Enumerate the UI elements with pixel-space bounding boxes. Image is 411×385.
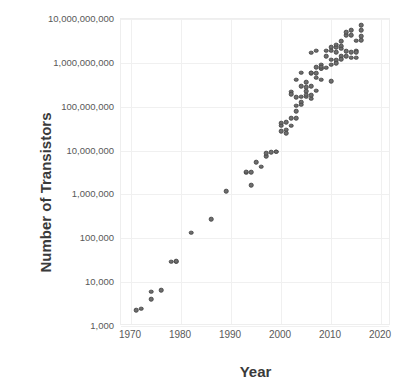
scatter-point bbox=[149, 290, 154, 295]
scatter-point bbox=[354, 56, 359, 61]
scatter-point bbox=[354, 38, 359, 43]
gridline-vertical bbox=[231, 19, 232, 324]
scatter-point bbox=[304, 92, 309, 97]
scatter-point bbox=[289, 92, 294, 97]
scatter-point bbox=[259, 164, 264, 169]
x-axis-title: Year bbox=[120, 360, 391, 382]
scatter-point bbox=[304, 80, 309, 85]
y-axis-tick-label: 1,000 bbox=[0, 320, 114, 331]
scatter-point bbox=[329, 79, 334, 84]
scatter-point bbox=[289, 116, 294, 121]
scatter-point bbox=[289, 123, 294, 128]
y-axis-tick-label: 100,000,000 bbox=[0, 100, 114, 111]
scatter-point bbox=[309, 84, 314, 89]
scatter-point bbox=[339, 39, 344, 44]
gridline-horizontal bbox=[121, 282, 389, 283]
scatter-point bbox=[359, 34, 364, 39]
scatter-point bbox=[249, 183, 254, 188]
gridline-horizontal bbox=[121, 63, 389, 64]
scatter-point bbox=[249, 170, 254, 175]
gridline-horizontal bbox=[121, 107, 389, 108]
scatter-point bbox=[329, 58, 334, 63]
x-axis-tick-label: 1980 bbox=[155, 329, 205, 340]
scatter-point bbox=[189, 230, 194, 235]
scatter-point bbox=[314, 88, 319, 93]
scatter-point bbox=[299, 94, 304, 99]
scatter-point bbox=[314, 71, 319, 76]
x-axis-tick-label: 2020 bbox=[355, 329, 405, 340]
scatter-point bbox=[244, 169, 249, 174]
scatter-point bbox=[349, 56, 354, 61]
scatter-point bbox=[324, 65, 329, 70]
scatter-point bbox=[294, 103, 299, 108]
gridline-vertical bbox=[131, 19, 132, 324]
scatter-point bbox=[314, 48, 319, 53]
gridline-vertical bbox=[181, 19, 182, 324]
scatter-point bbox=[334, 50, 339, 55]
scatter-point bbox=[294, 116, 299, 121]
scatter-point bbox=[169, 260, 174, 265]
y-axis-tick-label: 1,000,000 bbox=[0, 188, 114, 199]
y-axis-tick-label: 10,000 bbox=[0, 276, 114, 287]
scatter-point bbox=[334, 42, 339, 47]
scatter-point bbox=[329, 48, 334, 53]
gridline-horizontal bbox=[121, 19, 389, 20]
scatter-point bbox=[329, 62, 334, 67]
scatter-point bbox=[324, 48, 329, 53]
scatter-point bbox=[294, 95, 299, 100]
scatter-point bbox=[334, 61, 339, 66]
x-axis-tick-label: 1990 bbox=[205, 329, 255, 340]
scatter-point bbox=[224, 189, 229, 194]
scatter-point bbox=[314, 75, 319, 80]
scatter-point bbox=[309, 93, 314, 98]
scatter-point bbox=[349, 33, 354, 38]
chart-container: Number of Transistors 1,00010,000100,000… bbox=[0, 0, 411, 385]
scatter-point bbox=[314, 65, 319, 70]
gridline-vertical bbox=[381, 19, 382, 324]
gridline-horizontal bbox=[121, 238, 389, 239]
scatter-point bbox=[339, 57, 344, 62]
y-axis-tick-label: 10,000,000 bbox=[0, 144, 114, 155]
scatter-point bbox=[324, 54, 329, 59]
scatter-point bbox=[344, 54, 349, 59]
x-axis-tick-label: 2000 bbox=[255, 329, 305, 340]
scatter-point bbox=[359, 28, 364, 33]
y-axis-tick-label: 1,000,000,000 bbox=[0, 56, 114, 67]
scatter-point bbox=[344, 30, 349, 35]
scatter-point bbox=[174, 259, 179, 264]
gridline-horizontal bbox=[121, 326, 389, 327]
y-axis-tick-label: 100,000 bbox=[0, 232, 114, 243]
scatter-point bbox=[299, 102, 304, 107]
scatter-point bbox=[344, 49, 349, 54]
scatter-point bbox=[354, 50, 359, 55]
scatter-point bbox=[264, 151, 269, 156]
scatter-point bbox=[359, 23, 364, 28]
scatter-point bbox=[284, 127, 289, 132]
gridline-horizontal bbox=[121, 194, 389, 195]
scatter-point bbox=[294, 78, 299, 83]
scatter-point bbox=[139, 306, 144, 311]
x-axis-tick-label: 2010 bbox=[305, 329, 355, 340]
scatter-point bbox=[269, 150, 274, 155]
scatter-point bbox=[279, 129, 284, 134]
scatter-point bbox=[254, 160, 259, 165]
scatter-point bbox=[279, 123, 284, 128]
scatter-point bbox=[339, 46, 344, 51]
gridline-horizontal bbox=[121, 151, 389, 152]
scatter-point bbox=[304, 85, 309, 90]
scatter-point bbox=[159, 288, 164, 293]
gridline-vertical bbox=[281, 19, 282, 324]
scatter-point bbox=[294, 109, 299, 114]
scatter-point bbox=[319, 64, 324, 69]
scatter-point bbox=[284, 120, 289, 125]
scatter-point bbox=[134, 308, 139, 313]
x-axis-tick-label: 1970 bbox=[105, 329, 155, 340]
scatter-point bbox=[349, 50, 354, 55]
scatter-point bbox=[299, 84, 304, 89]
scatter-point bbox=[274, 149, 279, 154]
y-axis-tick-label: 10,000,000,000 bbox=[0, 13, 114, 24]
scatter-point bbox=[309, 70, 314, 75]
scatter-point bbox=[299, 71, 304, 76]
scatter-point bbox=[319, 77, 324, 82]
plot-area bbox=[120, 18, 390, 325]
